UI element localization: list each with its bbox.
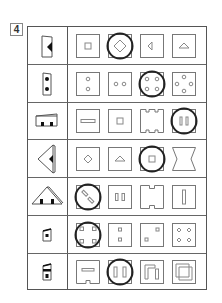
reference-figure-6: [28, 216, 67, 254]
option-6-3[interactable]: [140, 223, 164, 247]
question-row-3: [28, 102, 206, 140]
option-2-1[interactable]: [76, 72, 100, 96]
option-7-2[interactable]: [108, 260, 132, 284]
four-circles-sides-icon: [172, 72, 196, 96]
option-3-4[interactable]: [172, 109, 196, 133]
question-row-2: [28, 65, 206, 103]
single-vertical-bar-icon: [172, 185, 196, 209]
option-2-4[interactable]: [172, 72, 196, 96]
reference-figure-5: [28, 178, 67, 216]
reference-figure-4: [28, 140, 67, 178]
bar-bottom-notch-icon: [76, 260, 100, 284]
four-circles-icon-selected: [140, 72, 164, 96]
option-1-1[interactable]: [76, 34, 100, 58]
option-1-3[interactable]: [140, 34, 164, 58]
option-7-1[interactable]: [76, 260, 100, 284]
option-5-3[interactable]: [140, 185, 164, 209]
two-squares-vertical-icon: [108, 223, 132, 247]
up-triangle-icon: [172, 34, 196, 58]
option-4-1[interactable]: [76, 147, 100, 171]
arrowhead-icon: [28, 140, 67, 178]
option-3-2[interactable]: [108, 109, 132, 133]
diamond-icon: [76, 147, 100, 171]
question-row-5: [28, 178, 206, 216]
reference-figure-2: [28, 65, 67, 103]
reference-figure-7: [28, 253, 67, 291]
question-row-6: [28, 216, 206, 254]
up-triangle-icon: [108, 147, 132, 171]
option-3-3[interactable]: [140, 109, 164, 133]
horizontal-bar-icon: [76, 109, 100, 133]
flap-panel-triangle-icon: [28, 27, 67, 65]
two-squares-diagonal-icon: [140, 223, 164, 247]
option-5-1[interactable]: [76, 185, 100, 209]
notched-square-top-bottom-icon: [140, 185, 164, 209]
question-number: 4: [10, 23, 23, 36]
two-vertical-bars-icon-selected: [172, 109, 196, 133]
notched-square-icon: [140, 109, 164, 133]
left-triangle-icon: [140, 34, 164, 58]
question-row-4: [28, 140, 206, 178]
reference-figure-3: [28, 102, 67, 140]
option-1-4[interactable]: [172, 34, 196, 58]
flap-panel-dots-icon: [28, 65, 67, 103]
option-6-4[interactable]: [172, 223, 196, 247]
two-wide-bars-icon-selected: [108, 260, 132, 284]
flap-panel-bar-square-icon: [28, 253, 67, 291]
option-3-1[interactable]: [76, 109, 100, 133]
option-4-2[interactable]: [108, 147, 132, 171]
question-row-1: [28, 27, 206, 65]
option-4-3[interactable]: [140, 147, 164, 171]
option-7-3[interactable]: [140, 260, 164, 284]
option-5-2[interactable]: [108, 185, 132, 209]
option-2-3[interactable]: [140, 72, 164, 96]
two-circles-horizontal-icon: [108, 72, 132, 96]
two-circles-vertical-icon: [76, 72, 100, 96]
small-square-icon-selected: [140, 147, 164, 171]
spiral-square-icon: [172, 260, 196, 284]
small-square-icon: [76, 34, 100, 58]
box-notches-icon: [28, 102, 67, 140]
question-row-7: [28, 253, 206, 291]
option-5-4[interactable]: [172, 185, 196, 209]
reference-figure-1: [28, 27, 67, 65]
hourglass-icon: [172, 147, 196, 171]
answer-grid: [27, 26, 207, 290]
flap-panel-square-icon: [28, 216, 67, 254]
diamond-icon-selected: [108, 34, 132, 58]
two-diagonal-bars-icon-selected: [76, 185, 100, 209]
option-4-4[interactable]: [172, 147, 196, 171]
option-1-2[interactable]: [108, 34, 132, 58]
four-diamonds-icon: [172, 223, 196, 247]
option-7-4[interactable]: [172, 260, 196, 284]
small-square-icon: [108, 109, 132, 133]
option-6-2[interactable]: [108, 223, 132, 247]
option-6-1[interactable]: [76, 223, 100, 247]
option-2-2[interactable]: [108, 72, 132, 96]
corner-bracket-icon: [140, 260, 164, 284]
four-squares-icon-selected: [76, 223, 100, 247]
triangle-squares-icon: [28, 178, 67, 216]
two-small-bars-icon: [108, 185, 132, 209]
